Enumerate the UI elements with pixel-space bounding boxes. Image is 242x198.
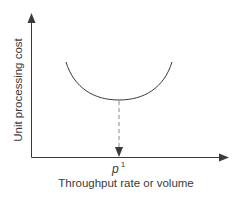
y-axis-label: Unit processing cost	[10, 20, 26, 160]
y-axis-arrow-icon	[28, 13, 36, 23]
optimum-symbol: p	[112, 162, 119, 176]
x-axis-label: Throughput rate or volume	[0, 177, 242, 189]
cost-curve	[66, 62, 172, 100]
optimum-superscript: 1	[121, 160, 125, 169]
optimum-point-label: p1	[112, 160, 125, 176]
x-axis-arrow-icon	[219, 154, 229, 162]
optimum-arrow-icon	[115, 147, 123, 157]
